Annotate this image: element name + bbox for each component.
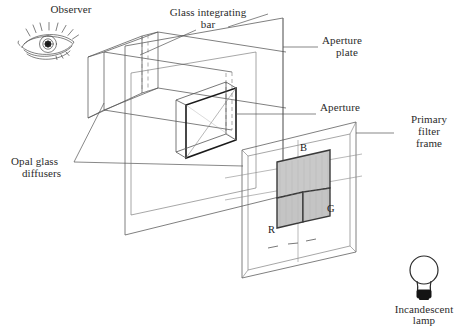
figure-canvas: Observer Glass integrating bar Aperture … <box>0 0 467 327</box>
label-aperture-plate-line2: plate <box>336 46 416 58</box>
label-observer: Observer <box>32 3 110 15</box>
label-filter-green: G <box>327 203 335 214</box>
label-opal-glass-diffusers-line2: diffusers <box>22 167 112 179</box>
aperture-plate <box>125 18 283 235</box>
rgb-filter-swatches <box>277 150 330 228</box>
eye-icon <box>18 23 79 60</box>
label-glass-integrating-bar-line2: bar <box>154 18 262 30</box>
label-aperture-plate-line1: Aperture <box>322 34 402 46</box>
label-glass-integrating-bar-line1: Glass integrating <box>154 6 262 18</box>
label-opal-glass-diffusers-line1: Opal glass <box>11 155 101 167</box>
label-primary-filter-frame-line1: Primary <box>396 113 462 125</box>
label-primary-filter-frame-line2: filter <box>396 125 462 137</box>
label-filter-blue: B <box>300 142 307 153</box>
label-incandescent-lamp-line2: lamp <box>381 314 467 326</box>
incandescent-lamp-icon <box>410 256 438 300</box>
label-filter-red: R <box>268 224 275 235</box>
filter-swatch-red <box>277 192 303 228</box>
label-aperture: Aperture <box>320 101 400 113</box>
label-primary-filter-frame-line3: frame <box>396 137 462 149</box>
filter-swatch-green <box>303 188 330 222</box>
